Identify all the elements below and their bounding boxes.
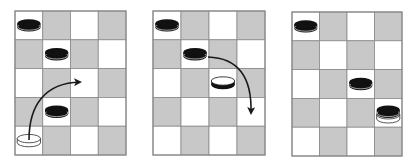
dark-square — [347, 98, 375, 127]
dark-square — [375, 70, 403, 99]
black-piece-icon — [155, 19, 179, 31]
dark-square — [292, 98, 320, 127]
dark-square — [43, 126, 71, 155]
dark-square — [375, 12, 403, 41]
dark-square — [181, 69, 209, 98]
dark-square — [292, 41, 320, 70]
dark-square — [98, 69, 126, 98]
dark-square — [43, 11, 71, 40]
light-square — [15, 69, 43, 98]
dark-square — [71, 40, 99, 69]
light-square — [292, 70, 320, 99]
checkers-diagram — [0, 0, 408, 168]
dark-square — [320, 70, 348, 99]
light-square — [347, 12, 375, 41]
black-piece-icon — [349, 78, 372, 90]
dark-square — [153, 97, 181, 126]
black-piece-icon — [45, 106, 68, 118]
light-square — [320, 98, 348, 127]
light-square — [209, 11, 237, 40]
dark-square — [237, 126, 265, 155]
dark-square — [71, 97, 99, 126]
light-square — [153, 126, 181, 155]
light-square — [209, 126, 237, 155]
light-square — [320, 41, 348, 70]
light-square — [71, 11, 99, 40]
light-square — [153, 69, 181, 98]
board-3 — [292, 12, 402, 156]
dark-square — [98, 11, 126, 40]
dark-square — [347, 41, 375, 70]
light-square — [181, 97, 209, 126]
board-1 — [15, 11, 126, 155]
light-square — [347, 127, 375, 156]
board-2 — [153, 11, 265, 155]
dark-square — [181, 11, 209, 40]
dark-square — [237, 11, 265, 40]
black-piece-icon — [183, 48, 207, 60]
black-piece-icon — [45, 48, 68, 60]
dark-square — [181, 126, 209, 155]
dark-square — [209, 97, 237, 126]
light-square — [98, 97, 126, 126]
light-square — [237, 40, 265, 69]
diagram-canvas — [0, 0, 408, 168]
dark-square — [153, 40, 181, 69]
white-piece-icon — [211, 77, 235, 89]
black-on-white-piece-icon — [377, 106, 400, 123]
light-square — [375, 41, 403, 70]
dark-square — [15, 40, 43, 69]
dark-square — [375, 127, 403, 156]
black-piece-icon — [294, 20, 317, 32]
light-square — [292, 127, 320, 156]
dark-square — [320, 12, 348, 41]
black-piece-icon — [17, 19, 40, 31]
light-square — [71, 126, 99, 155]
light-square — [98, 40, 126, 69]
dark-square — [320, 127, 348, 156]
dark-square — [98, 126, 126, 155]
